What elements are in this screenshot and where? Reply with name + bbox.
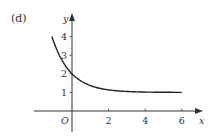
x-axis xyxy=(34,108,203,114)
tick-labels: 2461234 xyxy=(61,31,185,126)
y-tick-label: 4 xyxy=(61,31,67,42)
y-axis-label: y xyxy=(62,13,69,24)
panel-label: (d) xyxy=(11,12,27,25)
ticks xyxy=(70,37,182,111)
x-axis-arrow-icon xyxy=(195,108,203,114)
y-tick-label: 1 xyxy=(61,87,67,98)
x-tick-label: 2 xyxy=(106,115,112,126)
origin-label: O xyxy=(61,115,69,126)
y-tick-label: 2 xyxy=(61,68,67,79)
x-tick-label: 6 xyxy=(179,115,185,126)
x-axis-label: x xyxy=(199,115,205,126)
y-axis-arrow-icon xyxy=(69,13,75,21)
x-tick-label: 4 xyxy=(142,115,148,126)
chart: (d) 2461234 y x O xyxy=(0,0,216,139)
curve-line xyxy=(52,37,182,93)
